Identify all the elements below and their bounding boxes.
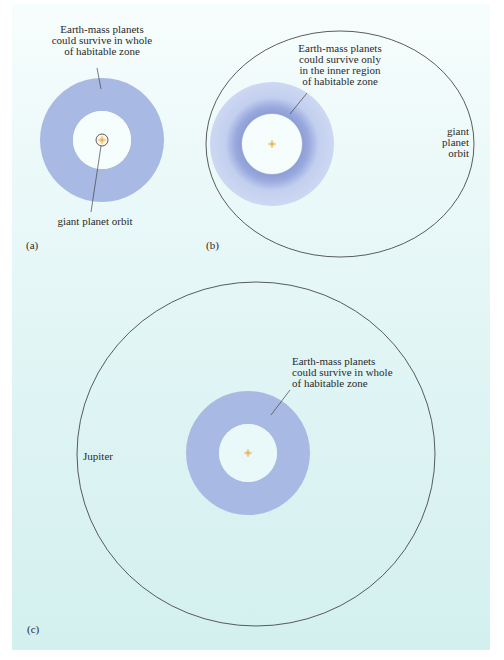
habitable-zone-diagram xyxy=(0,0,504,660)
panel-a-tag: (a) xyxy=(26,240,38,251)
panel-b-orbit-label: giant planet orbit xyxy=(430,126,469,159)
panel-c-annotation: Earth-mass planets could survive in whol… xyxy=(292,356,412,389)
panel-a-orbit-label: giant planet orbit xyxy=(40,216,150,227)
panel-c-orbit-label: Jupiter xyxy=(83,451,113,462)
annotation-line: of habitable zone xyxy=(292,378,412,389)
panel-c xyxy=(77,282,435,626)
panel-b-annotation: Earth-mass planets could survive only in… xyxy=(285,43,395,87)
panel-a-annotation: Earth-mass planets could survive in whol… xyxy=(37,24,167,57)
orbit-label-line: orbit xyxy=(430,148,469,159)
annotation-line: of habitable zone xyxy=(285,76,395,87)
panel-c-tag: (c) xyxy=(27,624,39,635)
annotation-line: of habitable zone xyxy=(37,46,167,57)
panel-a xyxy=(40,68,164,212)
panel-b-tag: (b) xyxy=(206,240,219,251)
